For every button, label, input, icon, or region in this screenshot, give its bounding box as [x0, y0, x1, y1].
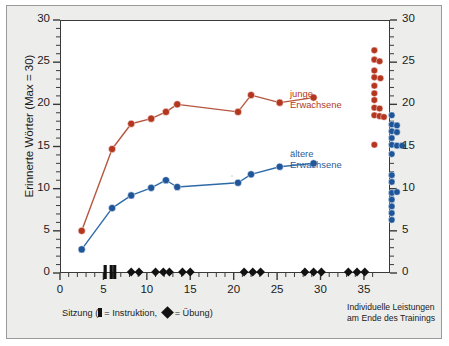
data-point: [162, 108, 169, 115]
strip-point: [388, 135, 395, 142]
y-tick-label-right: 15: [402, 139, 428, 151]
strip-point: [388, 196, 395, 203]
data-point: [148, 184, 155, 191]
practice-marker: [344, 268, 353, 277]
strip-point: [376, 58, 383, 65]
figure-root: Erinnerte Wörter (Max = 30) 005510101515…: [0, 0, 449, 346]
practice-marker: [178, 268, 187, 277]
y-tick-label-right: 20: [402, 96, 428, 108]
practice-diamond-icon: [161, 306, 174, 319]
y-tick-label-left: 5: [10, 223, 50, 235]
practice-marker: [151, 268, 160, 277]
series-label-old-line1: ältere: [290, 148, 342, 159]
practice-marker: [248, 268, 257, 277]
note-line-2: am Ende des Trainings: [347, 313, 435, 324]
data-point: [276, 99, 283, 106]
y-tick-label-left: 0: [10, 265, 50, 277]
series-label-old-line2: Erwachsene: [290, 159, 342, 170]
strip-point: [394, 189, 401, 196]
strip-point: [371, 97, 378, 104]
series-line-0: [82, 95, 314, 231]
practice-marker: [127, 268, 136, 277]
instruction-bar-icon: [98, 308, 102, 317]
practice-marker: [309, 268, 318, 277]
y-tick-label-right: 25: [402, 54, 428, 66]
data-point: [234, 108, 241, 115]
y-tick-label-left: 25: [10, 54, 50, 66]
strip-point: [388, 179, 395, 186]
y-tick-label-right: 5: [402, 223, 428, 235]
series-line-1: [82, 163, 314, 249]
data-point: [109, 145, 116, 152]
strip-point: [394, 122, 401, 129]
data-point: [128, 120, 135, 127]
strip-point: [388, 210, 395, 217]
strip-point: [377, 75, 384, 82]
data-point: [78, 246, 85, 253]
data-point: [247, 91, 254, 98]
y-tick-label-right: 10: [402, 181, 428, 193]
data-point: [234, 179, 241, 186]
data-point: [162, 177, 169, 184]
x-tick-label: 5: [90, 283, 116, 295]
strip-point: [376, 105, 383, 112]
individual-performance-note: Individuelle Leistungen am Ende des Trai…: [347, 302, 435, 324]
x-tick-label: 0: [47, 283, 73, 295]
strip-point: [394, 129, 401, 136]
strip-point: [371, 82, 378, 89]
strip-point: [371, 142, 378, 149]
series-label-young-line2: Erwachsene: [290, 99, 342, 110]
scan-speck: [231, 175, 232, 176]
data-point: [174, 183, 181, 190]
x-tick-label: 30: [308, 283, 334, 295]
practice-marker: [240, 268, 249, 277]
data-point: [276, 163, 283, 170]
strip-point: [388, 151, 395, 158]
practice-marker: [300, 268, 309, 277]
y-tick-label-left: 10: [10, 181, 50, 193]
instruction-marker: [104, 265, 107, 279]
x-caption-instruction: = Instruktion,: [104, 308, 157, 318]
x-axis-caption: Sitzung (= Instruktion, = Übung): [62, 308, 213, 318]
x-tick-label: 35: [351, 283, 377, 295]
y-tick-label-left: 20: [10, 96, 50, 108]
note-line-1: Individuelle Leistungen: [347, 302, 435, 313]
data-point: [109, 204, 116, 211]
data-point: [128, 192, 135, 199]
x-caption-prefix: Sitzung (: [62, 308, 98, 318]
practice-marker: [360, 268, 369, 277]
strip-point: [388, 112, 395, 119]
x-tick-label: 10: [134, 283, 160, 295]
data-point: [174, 101, 181, 108]
practice-marker: [186, 268, 195, 277]
y-tick-label-right: 0: [402, 265, 428, 277]
data-point: [148, 115, 155, 122]
strip-point: [388, 203, 395, 210]
strip-point: [381, 114, 388, 121]
strip-point: [388, 217, 395, 224]
x-tick-label: 15: [177, 283, 203, 295]
data-point: [78, 227, 85, 234]
practice-marker: [353, 268, 362, 277]
strip-point: [371, 74, 378, 81]
strip-point: [371, 67, 378, 74]
y-tick-label-left: 15: [10, 139, 50, 151]
series-label-young: junge Erwachsene: [290, 88, 342, 110]
series-label-old: ältere Erwachsene: [290, 148, 342, 170]
strip-point: [371, 90, 378, 97]
instruction-marker: [110, 265, 113, 279]
y-tick-label-right: 30: [402, 12, 428, 24]
x-caption-practice: = Übung): [175, 308, 213, 318]
strip-point: [371, 47, 378, 54]
practice-marker: [135, 268, 144, 277]
strip-point: [388, 172, 395, 179]
x-tick-label: 25: [264, 283, 290, 295]
y-tick-label-left: 30: [10, 12, 50, 24]
data-point: [247, 171, 254, 178]
series-label-young-line1: junge: [290, 88, 342, 99]
x-tick-label: 20: [221, 283, 247, 295]
instruction-marker: [113, 265, 116, 279]
practice-marker: [317, 268, 326, 277]
practice-marker: [256, 268, 265, 277]
